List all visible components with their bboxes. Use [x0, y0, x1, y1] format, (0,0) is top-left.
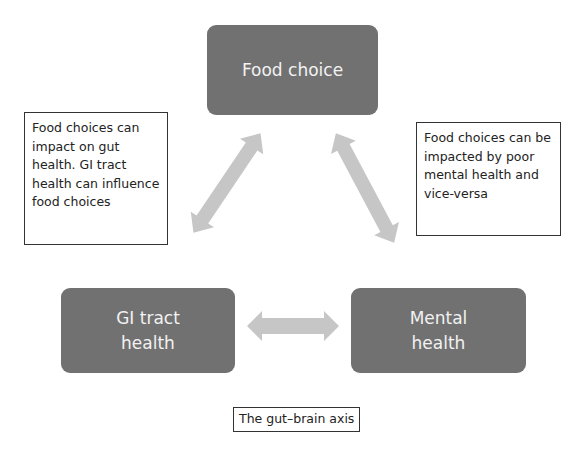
node-mental-health: Mental health	[351, 288, 526, 373]
double-arrow-food-mental	[324, 127, 407, 250]
caption-text: The gut–brain axis	[239, 411, 354, 426]
note-right-text: Food choices can be impacted by poor men…	[424, 130, 551, 201]
node-gi-tract-health-label: GI tract health	[103, 306, 193, 356]
note-left-text: Food choices can impact on gut health. G…	[32, 120, 159, 209]
node-mental-health-label: Mental health	[399, 306, 479, 356]
node-food-choice-label: Food choice	[242, 58, 343, 83]
note-right-food-mental: Food choices can be impacted by poor men…	[416, 122, 561, 236]
note-left-food-gut: Food choices can impact on gut health. G…	[24, 112, 168, 245]
double-arrow-gi-mental	[247, 311, 339, 341]
node-food-choice: Food choice	[207, 25, 378, 115]
diagram-caption: The gut–brain axis	[233, 407, 360, 432]
node-gi-tract-health: GI tract health	[61, 288, 235, 373]
double-arrow-food-gi	[182, 125, 272, 240]
